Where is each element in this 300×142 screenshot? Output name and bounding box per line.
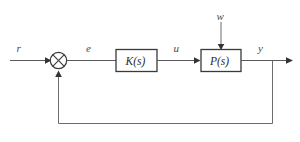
block-diagram-canvas: r e K(s) u P(s) w y xyxy=(0,0,300,142)
label-error-signal: e xyxy=(86,42,91,54)
arrow-head-control-into-plant xyxy=(194,57,201,64)
block-diagram-svg: r e K(s) u P(s) w y xyxy=(0,0,300,142)
arrow-head-output xyxy=(286,57,293,64)
label-control-signal: u xyxy=(174,42,180,54)
label-disturbance-signal: w xyxy=(217,10,225,22)
label-output-signal: y xyxy=(257,42,263,54)
label-plant-block: P(s) xyxy=(209,55,229,68)
arrow-head-feedback-into-sum xyxy=(55,71,62,78)
label-controller-block: K(s) xyxy=(125,55,146,68)
label-reference-signal: r xyxy=(17,42,22,54)
